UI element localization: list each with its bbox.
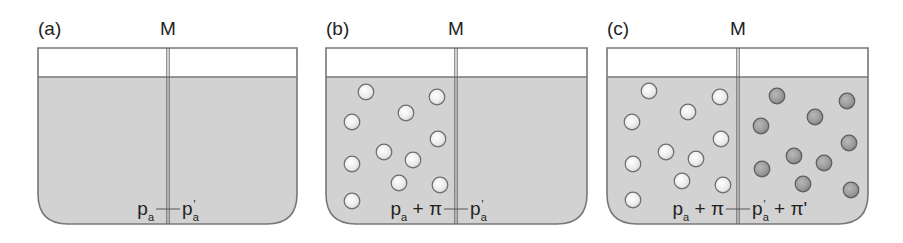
solute-particle-light xyxy=(405,152,421,168)
solute-particle-dark xyxy=(816,155,832,171)
panel-label: (a) xyxy=(38,18,61,39)
solute-particle-dark xyxy=(807,109,823,125)
solute-particle-light xyxy=(712,89,728,105)
solute-particle-dark xyxy=(841,135,857,151)
solute-particle-light xyxy=(624,114,640,130)
membrane-label: M xyxy=(448,18,464,39)
panel-a: (a)Mpap'a xyxy=(38,18,297,224)
solute-particle-light xyxy=(358,84,374,100)
solute-particle-light xyxy=(429,89,445,105)
panel-b: (b)Mpa + πp'a xyxy=(326,18,587,224)
solute-particle-dark xyxy=(786,148,802,164)
solute-particle-light xyxy=(430,131,446,147)
solute-particle-light xyxy=(715,177,731,193)
solute-particle-light xyxy=(688,151,704,167)
panel-c: (c)Mpa + πp'a + π' xyxy=(607,18,868,224)
membrane-label: M xyxy=(160,18,176,39)
panel-label: (c) xyxy=(607,18,629,39)
osmotic-pressure-diagram: (a)Mpap'a(b)Mpa + πp'a(c)Mpa + πp'a + π' xyxy=(0,0,903,243)
solute-particle-dark xyxy=(753,118,769,134)
solute-particle-light xyxy=(658,144,674,160)
solute-particle-light xyxy=(344,156,360,172)
solute-particle-dark xyxy=(839,93,855,109)
solute-particle-light xyxy=(680,104,696,120)
solute-particle-dark xyxy=(769,88,785,104)
solute-particle-light xyxy=(398,105,414,121)
solute-particle-light xyxy=(344,193,360,209)
solution-fill xyxy=(38,77,297,224)
solute-particle-light xyxy=(625,192,641,208)
solute-particle-light xyxy=(344,114,360,130)
solute-particle-light xyxy=(625,156,641,172)
solute-particle-light xyxy=(674,173,690,189)
solute-particle-light xyxy=(376,144,392,160)
solute-particle-light xyxy=(641,83,657,99)
panel-label: (b) xyxy=(326,18,349,39)
solute-particle-dark xyxy=(754,161,770,177)
solute-particle-light xyxy=(713,131,729,147)
solute-particle-light xyxy=(391,175,407,191)
solute-particle-light xyxy=(432,177,448,193)
solute-particle-dark xyxy=(843,182,859,198)
solution-fill xyxy=(607,77,868,224)
solute-particle-dark xyxy=(795,176,811,192)
membrane-label: M xyxy=(730,18,746,39)
